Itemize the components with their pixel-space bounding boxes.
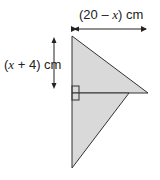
- height-label: (x + 4) cm: [4, 57, 61, 72]
- width-label: (20 – x) cm: [79, 7, 143, 22]
- triangle-diagram: (20 – x) cm (x + 4) cm: [0, 0, 160, 180]
- top-triangle: [72, 36, 148, 93]
- arrow-head-down-icon: [52, 83, 57, 89]
- arrow-head-left-icon: [73, 27, 79, 32]
- arrow-head-up-icon: [52, 37, 57, 43]
- bottom-triangle: [72, 93, 129, 168]
